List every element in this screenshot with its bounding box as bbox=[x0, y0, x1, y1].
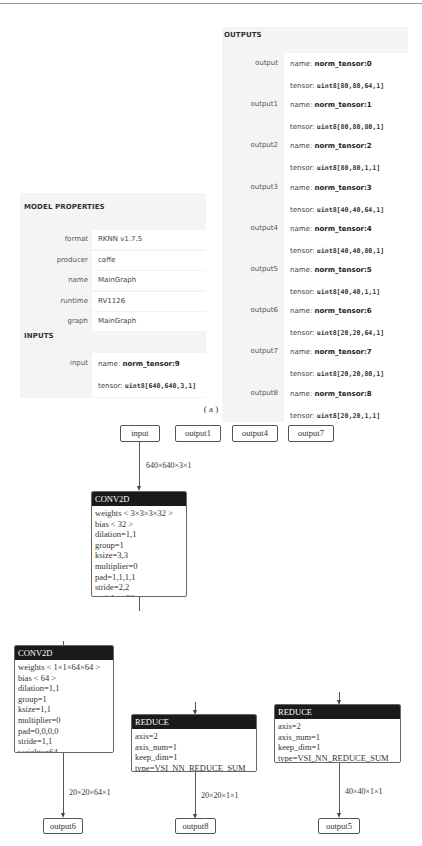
property-key: runtime bbox=[20, 297, 88, 305]
property-value[interactable]: name: norm_tensor:3tensor: uint8[40,40,6… bbox=[284, 177, 408, 221]
edge-input-conv1 bbox=[139, 442, 140, 487]
tensor-shape: uint8[20,20,80,1] bbox=[317, 370, 385, 378]
name-label: name: bbox=[98, 360, 120, 368]
name-label: name: bbox=[290, 101, 312, 109]
node-attribute: stride=2,2 bbox=[95, 582, 183, 593]
property-value-text: RKNN v1.7.5 bbox=[98, 230, 206, 249]
node-output8[interactable]: output8 bbox=[175, 818, 216, 834]
reduce-node-2[interactable]: REDUCE axis=2axis_num=1keep_dim=1type=VS… bbox=[274, 704, 401, 763]
tensor-label: tensor: bbox=[98, 382, 123, 390]
node-attribute: ksize=1,1 bbox=[18, 704, 110, 715]
edge-conv2-output6 bbox=[63, 753, 64, 815]
node-attribute: pad=0,0,0,0 bbox=[18, 726, 110, 737]
property-key: producer bbox=[20, 256, 88, 264]
node-attribute: pad=1,1,1,1 bbox=[95, 572, 183, 583]
tensor-shape: uint8[40,40,64,1] bbox=[317, 206, 385, 214]
property-value[interactable]: name: norm_tensor:0tensor: uint8[80,80,6… bbox=[284, 53, 408, 97]
property-value[interactable]: name: norm_tensor:6tensor: uint8[20,20,6… bbox=[284, 300, 408, 344]
name-label: name: bbox=[290, 60, 312, 68]
tensor-label: tensor: bbox=[290, 329, 315, 337]
tensor-shape: uint8[20,20,64,1] bbox=[317, 329, 385, 337]
property-key: output5 bbox=[222, 265, 278, 273]
name-label: name: bbox=[290, 142, 312, 150]
property-value-text: MainGraph bbox=[98, 271, 206, 290]
property-key: input bbox=[20, 359, 88, 367]
property-key: output3 bbox=[222, 183, 278, 191]
tensor-name: norm_tensor:5 bbox=[314, 266, 371, 274]
property-value[interactable]: name: norm_tensor:7tensor: uint8[20,20,8… bbox=[284, 341, 408, 385]
tensor-name: norm_tensor:1 bbox=[314, 101, 371, 109]
property-row: output6name: norm_tensor:6tensor: uint8[… bbox=[222, 300, 408, 344]
edge-conv1-out bbox=[139, 597, 140, 611]
conv2d-node-1-op: CONV2D bbox=[92, 492, 186, 506]
property-key: output8 bbox=[222, 389, 278, 397]
node-output1[interactable]: output1 bbox=[175, 425, 221, 442]
node-attribute: type=VSI_NN_REDUCE_SUM bbox=[278, 753, 397, 763]
node-attribute: bias < 64 > bbox=[18, 673, 110, 684]
property-key: output bbox=[222, 59, 278, 67]
edge-reduce1-output8 bbox=[195, 772, 196, 816]
reduce-node-1[interactable]: REDUCE axis=2axis_num=1keep_dim=1type=VS… bbox=[131, 714, 257, 772]
reduce-node-1-op: REDUCE bbox=[132, 715, 256, 729]
tensor-name: norm_tensor:3 bbox=[314, 184, 371, 192]
tensor-label: tensor: bbox=[290, 82, 315, 90]
property-key: name bbox=[20, 276, 88, 284]
node-input[interactable]: input bbox=[120, 425, 160, 442]
node-output4[interactable]: output4 bbox=[232, 425, 278, 442]
node-output7[interactable]: output7 bbox=[288, 425, 334, 442]
tensor-label: tensor: bbox=[290, 247, 315, 255]
tensor-name: norm_tensor:9 bbox=[122, 360, 179, 368]
tensor-label: tensor: bbox=[290, 288, 315, 296]
tensor-label: tensor: bbox=[290, 206, 315, 214]
node-attribute: dilation=1,1 bbox=[95, 529, 183, 540]
property-value[interactable]: name: norm_tensor:4tensor: uint8[40,40,8… bbox=[284, 218, 408, 262]
property-key: output7 bbox=[222, 347, 278, 355]
property-row: output5name: norm_tensor:5tensor: uint8[… bbox=[222, 259, 408, 303]
conv2d-node-1[interactable]: CONV2D weights < 3×3×3×32 >bias < 32 >di… bbox=[91, 491, 187, 597]
node-attribute: multiplier=0 bbox=[95, 561, 183, 572]
property-value[interactable]: name: norm_tensor:5tensor: uint8[40,40,1… bbox=[284, 259, 408, 303]
property-value-text: MainGraph bbox=[98, 312, 206, 331]
tensor-name: norm_tensor:0 bbox=[314, 60, 371, 68]
outputs-title: OUTPUTS bbox=[224, 31, 262, 39]
property-row: output4name: norm_tensor:4tensor: uint8[… bbox=[222, 218, 408, 262]
property-row: formatRKNN v1.7.5 bbox=[20, 230, 206, 249]
page-header-rule bbox=[0, 0, 422, 4]
name-label: name: bbox=[290, 348, 312, 356]
property-key: output6 bbox=[222, 306, 278, 314]
tensor-shape: uint8[80,80,1,1] bbox=[317, 164, 381, 172]
name-label: name: bbox=[290, 266, 312, 274]
property-value[interactable]: name: norm_tensor:9tensor: uint8[640,640… bbox=[92, 353, 206, 397]
tensor-shape: uint8[640,640,3,1] bbox=[125, 382, 196, 390]
tensor-shape: uint8[40,40,1,1] bbox=[317, 288, 381, 296]
tensor-name: norm_tensor:8 bbox=[314, 390, 371, 398]
name-label: name: bbox=[290, 225, 312, 233]
property-value[interactable]: caffe bbox=[92, 251, 206, 270]
node-output6[interactable]: output6 bbox=[43, 818, 83, 834]
property-value[interactable]: MainGraph bbox=[92, 271, 206, 290]
name-label: name: bbox=[290, 307, 312, 315]
property-value[interactable]: name: norm_tensor:2tensor: uint8[80,80,1… bbox=[284, 135, 408, 179]
property-value[interactable]: RV1126 bbox=[92, 292, 206, 311]
property-value-text: RV1126 bbox=[98, 292, 206, 311]
property-value[interactable]: RKNN v1.7.5 bbox=[92, 230, 206, 249]
property-row: output7name: norm_tensor:7tensor: uint8[… bbox=[222, 341, 408, 385]
property-row: output1name: norm_tensor:1tensor: uint8[… bbox=[222, 94, 408, 138]
property-row: graphMainGraph bbox=[20, 312, 206, 331]
node-attribute: group=1 bbox=[18, 694, 110, 705]
property-value[interactable]: name: norm_tensor:1tensor: uint8[80,80,8… bbox=[284, 94, 408, 138]
property-row: runtimeRV1126 bbox=[20, 292, 206, 311]
node-attribute: weights < 3×3×3×32 > bbox=[95, 508, 183, 519]
property-value[interactable]: MainGraph bbox=[92, 312, 206, 331]
conv2d-node-2[interactable]: CONV2D weights < 1×1×64×64 >bias < 64 >d… bbox=[14, 645, 114, 753]
node-attribute: axis=2 bbox=[278, 721, 397, 732]
property-key: output4 bbox=[222, 224, 278, 232]
tensor-name: norm_tensor:6 bbox=[314, 307, 371, 315]
figure-caption: ( a ) bbox=[0, 404, 422, 414]
tensor-shape: uint8[80,80,64,1] bbox=[317, 82, 385, 90]
node-output5[interactable]: output5 bbox=[318, 818, 360, 834]
property-row: output3name: norm_tensor:3tensor: uint8[… bbox=[222, 177, 408, 221]
property-row: output2name: norm_tensor:2tensor: uint8[… bbox=[222, 135, 408, 179]
tensor-shape: uint8[80,80,80,1] bbox=[317, 123, 385, 131]
tensor-name: norm_tensor:2 bbox=[314, 142, 371, 150]
